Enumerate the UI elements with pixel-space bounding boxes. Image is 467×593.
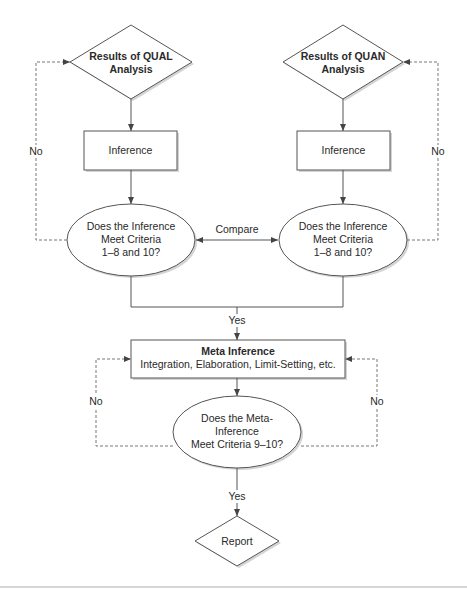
meta-inference-subtitle: Integration, Elaboration, Limit-Setting,… bbox=[131, 358, 345, 371]
no-quan-label: No bbox=[426, 145, 450, 158]
qual-inference-label: Inference bbox=[84, 144, 177, 157]
flowchart-canvas bbox=[0, 0, 467, 593]
shape-shadows bbox=[69, 27, 409, 568]
qual-results-label: Results of QUAL Analysis bbox=[71, 50, 191, 76]
report-label: Report bbox=[197, 535, 277, 548]
yes-merge-label: Yes bbox=[222, 314, 252, 327]
quan-inference-label: Inference bbox=[297, 144, 390, 157]
no-qual-label: No bbox=[24, 145, 48, 158]
edge-merge bbox=[131, 276, 343, 307]
compare-label: Compare bbox=[212, 223, 262, 236]
qual-check-label: Does the Inference Meet Criteria 1–8 and… bbox=[71, 220, 191, 259]
meta-check-label: Does the Meta- Inference Meet Criteria 9… bbox=[177, 412, 297, 451]
quan-results-label: Results of QUAN Analysis bbox=[283, 50, 403, 76]
no-meta-right-label: No bbox=[365, 395, 389, 408]
no-meta-left-label: No bbox=[84, 395, 108, 408]
meta-inference-title: Meta Inference bbox=[131, 345, 345, 358]
bottom-divider bbox=[0, 586, 467, 588]
yes-report-label: Yes bbox=[222, 490, 252, 503]
quan-check-label: Does the Inference Meet Criteria 1–8 and… bbox=[283, 220, 403, 259]
meta-inference-label: Meta Inference Integration, Elaboration,… bbox=[131, 345, 345, 371]
